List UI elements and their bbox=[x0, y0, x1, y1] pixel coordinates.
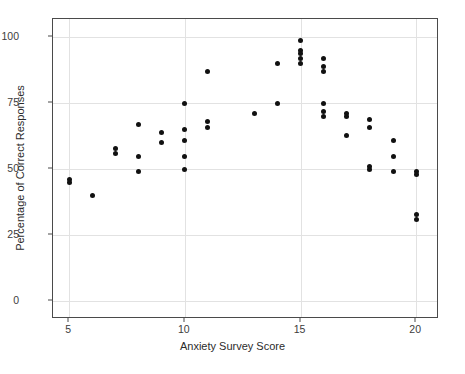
data-point bbox=[205, 69, 210, 74]
y-axis-tick-mark bbox=[48, 36, 52, 37]
data-point bbox=[321, 64, 326, 69]
data-point bbox=[136, 122, 141, 127]
gridline-vertical bbox=[416, 19, 417, 317]
gridline-horizontal bbox=[53, 169, 437, 170]
gridline-horizontal bbox=[53, 103, 437, 104]
data-point bbox=[205, 119, 210, 124]
data-point bbox=[391, 138, 396, 143]
data-point bbox=[321, 69, 326, 74]
data-point bbox=[275, 101, 280, 106]
data-point bbox=[344, 114, 349, 119]
data-point bbox=[391, 154, 396, 159]
x-axis-label: Anxiety Survey Score bbox=[0, 340, 465, 352]
data-point bbox=[321, 101, 326, 106]
gridline-horizontal bbox=[53, 37, 437, 38]
x-axis-tick-label: 5 bbox=[65, 323, 71, 335]
data-point bbox=[182, 101, 187, 106]
data-point bbox=[391, 169, 396, 174]
data-point bbox=[298, 51, 303, 56]
data-point bbox=[182, 127, 187, 132]
y-axis-tick-mark bbox=[48, 300, 52, 301]
data-point bbox=[205, 125, 210, 130]
plot-panel bbox=[52, 18, 438, 318]
data-point bbox=[113, 151, 118, 156]
data-point bbox=[182, 138, 187, 143]
data-point bbox=[414, 217, 419, 222]
data-point bbox=[113, 146, 118, 151]
data-point bbox=[321, 114, 326, 119]
x-axis-tick-label: 15 bbox=[294, 323, 306, 335]
data-point bbox=[367, 125, 372, 130]
data-point bbox=[90, 193, 95, 198]
plot-area bbox=[53, 19, 437, 317]
data-point bbox=[367, 167, 372, 172]
data-point bbox=[344, 133, 349, 138]
x-axis-tick-mark bbox=[415, 318, 416, 322]
gridline-horizontal bbox=[53, 235, 437, 236]
x-axis-tick-label: 10 bbox=[178, 323, 190, 335]
gridline-vertical bbox=[69, 19, 70, 317]
data-point bbox=[67, 180, 72, 185]
data-point bbox=[321, 56, 326, 61]
data-point bbox=[298, 61, 303, 66]
data-point bbox=[414, 172, 419, 177]
y-axis-tick-mark bbox=[48, 168, 52, 169]
data-point bbox=[252, 111, 257, 116]
data-point bbox=[159, 130, 164, 135]
data-point bbox=[298, 56, 303, 61]
x-axis-tick-label: 20 bbox=[409, 323, 421, 335]
y-axis-label: Percentage of Correct Responses bbox=[14, 18, 30, 318]
data-point bbox=[298, 38, 303, 43]
x-axis-tick-mark bbox=[299, 318, 300, 322]
data-point bbox=[182, 154, 187, 159]
y-axis-tick-mark bbox=[48, 234, 52, 235]
x-axis-tick-mark bbox=[183, 318, 184, 322]
data-point bbox=[136, 169, 141, 174]
data-point bbox=[159, 140, 164, 145]
data-point bbox=[182, 167, 187, 172]
data-point bbox=[136, 154, 141, 159]
data-point bbox=[321, 109, 326, 114]
data-point bbox=[275, 61, 280, 66]
y-axis-tick-mark bbox=[48, 102, 52, 103]
scatter-plot-figure: 02550751005101520 Percentage of Correct … bbox=[0, 0, 465, 374]
data-point bbox=[367, 117, 372, 122]
data-point bbox=[414, 212, 419, 217]
x-axis-tick-mark bbox=[68, 318, 69, 322]
gridline-horizontal bbox=[53, 301, 437, 302]
